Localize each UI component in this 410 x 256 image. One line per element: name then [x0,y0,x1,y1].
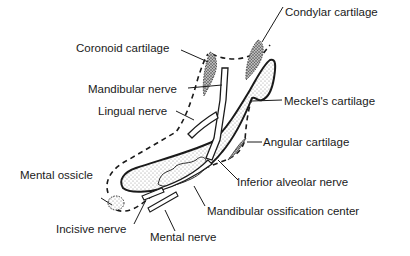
label-meckels-cartilage: Meckel's cartilage [284,95,375,107]
label-inferior-alveolar-nerve: Inferior alveolar nerve [237,176,348,188]
mandible-development-diagram: Condylar cartilage Coronoid cartilage Ma… [0,0,410,256]
mental-ossicle-shape [108,196,124,210]
label-angular-cartilage: Angular cartilage [263,136,349,148]
label-incisive-nerve: Incisive nerve [56,223,126,235]
label-mental-nerve: Mental nerve [150,231,216,243]
label-mandibular-ossification-center: Mandibular ossification center [207,205,359,217]
leader-lines [101,7,283,231]
label-lingual-nerve: Lingual nerve [98,105,167,117]
lingual-nerve-shape [188,112,218,138]
coronoid-cartilage-shape [203,52,216,96]
label-coronoid-cartilage: Coronoid cartilage [76,42,169,54]
label-mental-ossicle: Mental ossicle [20,169,93,181]
label-mandibular-nerve: Mandibular nerve [88,83,177,95]
label-condylar-cartilage: Condylar cartilage [285,6,378,18]
